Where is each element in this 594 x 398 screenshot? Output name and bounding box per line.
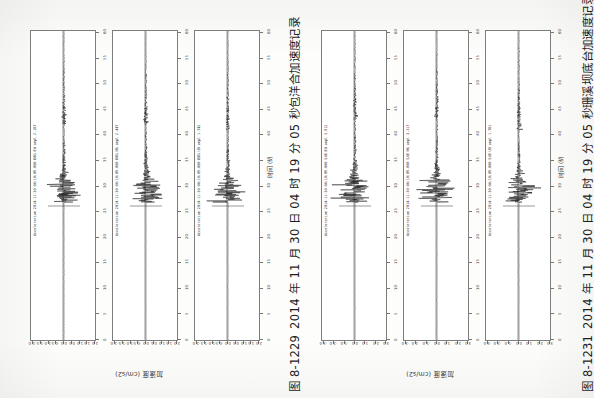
axis-tick-label: 25 — [185, 208, 189, 213]
axis-tick — [551, 211, 554, 212]
axis-tick-label: 5 — [394, 313, 398, 315]
axis-tick — [387, 58, 390, 59]
axis-tick — [96, 32, 99, 33]
axis-tick — [96, 262, 99, 263]
axis-tick-label: 20 — [103, 234, 107, 239]
axis-tick — [178, 186, 181, 187]
axis-tick-label: 1.0 — [526, 341, 532, 345]
axis-tick — [260, 109, 263, 110]
axis-tick-label: -1.0 — [340, 341, 347, 345]
axis-tick — [96, 83, 99, 84]
seismogram-panel: Acceleration 2014-11-30 04:19:05.000 SXB… — [485, 30, 551, 341]
figure-caption: 图 8-12312014 年 11 月 30 日 04 时 19 分 05 秒珊… — [579, 0, 594, 392]
waveform-path — [133, 31, 163, 340]
axis-tick-label: 50 — [476, 80, 480, 85]
acceleration-axis: -2.0-1.5-1.0-0.50.00.51.01.52.0 — [194, 341, 260, 355]
axis-tick-label: 50 — [103, 80, 107, 85]
axis-tick — [260, 32, 263, 33]
axis-tick-label: -1.0 — [504, 341, 511, 345]
axis-tick-label: 0 — [267, 339, 271, 341]
axis-tick-label: 1.5 — [166, 341, 172, 345]
time-axis: 051015202530354045505560 — [387, 30, 407, 341]
axis-tick-label: 2.0 — [174, 341, 180, 345]
time-axis-title: 时间 (s) — [265, 156, 274, 178]
axis-tick — [469, 134, 472, 135]
axis-tick-label: 0.0 — [143, 341, 149, 345]
axis-tick-label: 15 — [103, 259, 107, 264]
axis-tick-label: 55 — [476, 55, 480, 60]
axis-tick-label: 50 — [558, 80, 562, 85]
axis-tick — [178, 262, 181, 263]
scanned-page: Acceleration 2014-11-30 04:19:05.000 BBG… — [0, 0, 594, 398]
axis-tick — [178, 83, 181, 84]
seismogram-panel: Acceleration 2014-11-30 04:19:05.000 BBG… — [112, 30, 178, 341]
axis-tick-label: 0.5 — [69, 341, 75, 345]
axis-tick-label: 20 — [267, 234, 271, 239]
axis-tick-label: 40 — [476, 131, 480, 136]
axis-tick-label: 5 — [103, 313, 107, 315]
axis-tick-label: 15 — [185, 259, 189, 264]
acceleration-axis: -3.0-2.0-1.00.01.02.03.0 — [485, 341, 551, 355]
axis-tick-label: 25 — [103, 208, 107, 213]
axis-tick-label: 10 — [103, 285, 107, 290]
axis-tick-label: 60 — [394, 29, 398, 34]
axis-tick-label: 0 — [558, 339, 562, 341]
waveform-path — [331, 31, 369, 340]
axis-tick — [551, 160, 554, 161]
axis-tick-label: 0.0 — [352, 341, 358, 345]
axis-tick-label: 0 — [185, 339, 189, 341]
axis-tick-label: -0.5 — [134, 341, 141, 345]
axis-tick — [96, 160, 99, 161]
time-axis: 051015202530354045505560 — [178, 30, 198, 341]
axis-tick-label: -1.0 — [126, 341, 133, 345]
axis-tick-label: 55 — [103, 55, 107, 60]
axis-tick — [260, 186, 263, 187]
axis-tick-label: 1.0 — [158, 341, 164, 345]
axis-tick-label: 25 — [476, 208, 480, 213]
axis-tick-label: -0.5 — [216, 341, 223, 345]
axis-tick — [387, 109, 390, 110]
axis-tick — [469, 339, 472, 340]
axis-tick-label: 1.5 — [248, 341, 254, 345]
axis-tick-label: 10 — [267, 285, 271, 290]
axis-tick-label: 1.0 — [76, 341, 82, 345]
channel-label: Acceleration 2014-11-30 04:19:05.000 SXB… — [324, 125, 328, 236]
axis-tick — [387, 339, 390, 340]
waveform-path — [47, 31, 81, 340]
axis-tick-label: -3.0 — [402, 341, 409, 345]
axis-tick-label: 0.0 — [516, 341, 522, 345]
axis-tick-label: 40 — [394, 131, 398, 136]
axis-tick-label: 35 — [394, 157, 398, 162]
axis-tick — [178, 134, 181, 135]
axis-tick — [469, 109, 472, 110]
axis-tick-label: 20 — [476, 234, 480, 239]
axis-tick — [551, 339, 554, 340]
axis-tick — [178, 288, 181, 289]
acceleration-axis-title: 加速度 (cm/s2) — [115, 370, 163, 380]
waveform-path — [207, 31, 246, 340]
axis-tick-label: -2.0 — [111, 341, 118, 345]
axis-tick — [260, 211, 263, 212]
axis-tick — [551, 83, 554, 84]
axis-tick-label: 45 — [558, 106, 562, 111]
axis-tick — [178, 32, 181, 33]
axis-tick — [469, 160, 472, 161]
axis-tick-label: 35 — [476, 157, 480, 162]
axis-tick-label: 60 — [267, 29, 271, 34]
figure-8-1229: Acceleration 2014-11-30 04:19:05.000 BBG… — [0, 0, 297, 398]
figure-8-1231: Acceleration 2014-11-30 04:19:05.000 SXB… — [297, 0, 594, 398]
waveform-trace — [195, 31, 259, 340]
axis-tick-label: -1.5 — [36, 341, 43, 345]
axis-tick-label: -2.0 — [193, 341, 200, 345]
axis-tick-label: 50 — [394, 80, 398, 85]
axis-tick — [551, 186, 554, 187]
axis-tick-label: 1.0 — [362, 341, 368, 345]
axis-tick — [551, 313, 554, 314]
axis-tick-label: 2.0 — [537, 341, 543, 345]
axis-tick — [387, 313, 390, 314]
axis-tick — [260, 313, 263, 314]
axis-tick — [178, 339, 181, 340]
axis-tick-label: 10 — [476, 285, 480, 290]
axis-tick — [260, 262, 263, 263]
axis-tick — [178, 109, 181, 110]
